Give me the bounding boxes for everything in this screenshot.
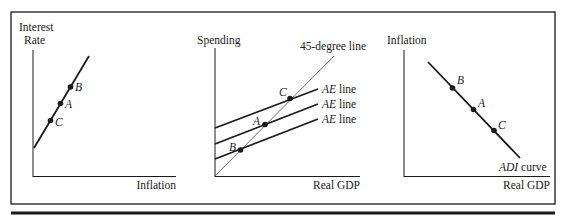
- ae-line-low-label: AE line: [321, 113, 356, 125]
- y-axis-label: Spending: [197, 34, 241, 47]
- point-a: [471, 107, 477, 113]
- adi-derivation-figure: Interest Rate Inflation B A C Spending R…: [0, 0, 566, 218]
- x-axis-label: Inflation: [136, 179, 176, 191]
- point-a-label: A: [477, 97, 486, 109]
- point-a: [58, 101, 64, 107]
- ae-line-high-label: AE line: [321, 83, 356, 95]
- point-b-label: B: [229, 141, 236, 153]
- point-b: [68, 84, 74, 90]
- y-axis-label: Inflation: [387, 34, 427, 46]
- point-c: [48, 118, 54, 124]
- y-axis-label-line2: Rate: [24, 34, 45, 46]
- y-axis-label-line1: Interest: [19, 21, 54, 33]
- point-a-label: A: [64, 98, 73, 110]
- point-c: [287, 96, 293, 102]
- panel-keynesian-cross: Spending Real GDP 45-degree line AE line…: [197, 34, 366, 191]
- point-c-label: C: [55, 116, 63, 128]
- point-c-label: C: [279, 86, 287, 98]
- point-b: [238, 147, 244, 153]
- x-axis-label: Real GDP: [503, 179, 550, 191]
- ae-line-middle-label: AE line: [321, 98, 356, 110]
- x-axis-label: Real GDP: [313, 179, 360, 191]
- point-b-label: B: [75, 81, 82, 93]
- panel-adi-curve: Inflation Real GDP B A C ADI curve: [387, 34, 550, 191]
- forty-five-degree-line: [215, 56, 334, 176]
- adi-curve-label: ADI curve: [498, 161, 547, 173]
- point-c: [491, 128, 497, 134]
- point-a: [262, 122, 268, 128]
- point-c-label: C: [498, 119, 506, 131]
- point-b: [450, 85, 456, 91]
- point-b-label: B: [457, 74, 464, 86]
- panel-mp-curve: Interest Rate Inflation B A C: [19, 21, 176, 191]
- forty-five-degree-label: 45-degree line: [300, 40, 366, 53]
- point-a-label: A: [252, 115, 261, 127]
